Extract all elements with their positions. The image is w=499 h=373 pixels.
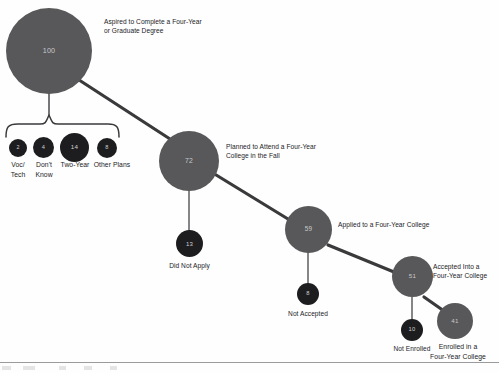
label-planned: Planned to Attend a Four-Year College in…	[226, 143, 356, 161]
connector-planned-to-applied	[208, 170, 288, 219]
node-not-enrolled-value: 10	[409, 327, 416, 333]
node-applied[interactable]: 59	[285, 206, 332, 253]
label-applied: Applied to a Four-Year College	[338, 221, 478, 230]
page-divider-rule	[0, 362, 499, 363]
node-dont-know-value: 4	[42, 145, 45, 151]
node-not-accepted[interactable]: 8	[297, 283, 319, 305]
grouping-brace	[6, 115, 119, 137]
node-dont-know[interactable]: 4	[33, 137, 54, 158]
node-not-enrolled[interactable]: 10	[401, 319, 423, 341]
node-planned[interactable]: 72	[159, 131, 219, 191]
node-planned-value: 72	[185, 158, 193, 165]
label-not-accepted: Not Accepted	[278, 310, 338, 319]
node-did-not-apply-value: 13	[186, 241, 193, 247]
node-voc-tech[interactable]: 2	[9, 139, 27, 157]
node-enrolled[interactable]: 41	[437, 303, 473, 339]
label-accepted: Accepted Into a Four-Year College	[433, 263, 499, 281]
label-aspired: Aspired to Complete a Four-Year or Gradu…	[104, 18, 244, 36]
node-aspired[interactable]: 100	[6, 8, 92, 94]
page-edge-artifact	[2, 366, 152, 370]
node-two-year-value: 14	[71, 144, 78, 150]
label-not-enrolled: Not Enrolled	[382, 345, 442, 354]
node-applied-value: 59	[305, 226, 313, 232]
node-aspired-value: 100	[43, 47, 56, 54]
node-accepted-value: 51	[409, 273, 416, 279]
node-other-plans[interactable]: 8	[97, 138, 117, 158]
node-voc-tech-value: 2	[16, 145, 19, 150]
node-two-year[interactable]: 14	[60, 133, 89, 162]
node-other-plans-value: 8	[105, 145, 108, 151]
label-other-plans: Other Plans	[88, 160, 136, 170]
connector-aspired-to-planned	[76, 78, 170, 139]
diagram-canvas: 100 Aspired to Complete a Four-Year or G…	[0, 0, 499, 373]
node-not-accepted-value: 8	[306, 291, 309, 297]
connector-applied-to-accepted	[328, 245, 394, 272]
node-accepted[interactable]: 51	[392, 256, 433, 297]
label-did-not-apply: Did Not Apply	[157, 262, 222, 271]
node-did-not-apply[interactable]: 13	[176, 230, 203, 257]
node-enrolled-value: 41	[451, 318, 458, 324]
